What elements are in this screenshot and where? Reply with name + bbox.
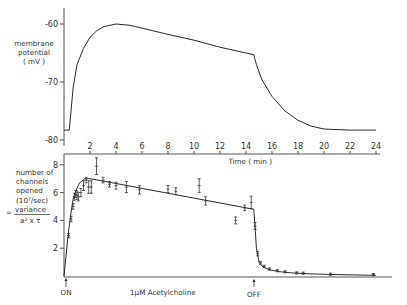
time-tick-label: 20 [319, 142, 329, 151]
time-tick-label: 4 [113, 142, 118, 151]
lower-ylabel-line4: (10⁷/sec) [16, 196, 48, 205]
data-point [256, 252, 259, 256]
data-point [174, 188, 177, 195]
membrane-potential-curve [64, 24, 376, 130]
upper-ylabel-line1: membrane [14, 39, 54, 48]
data-points [67, 158, 375, 276]
time-tick-label: 2 [87, 142, 92, 151]
data-point [90, 181, 93, 194]
figure: -60-70-80 membrane potential ( mV ) 2468… [0, 0, 407, 305]
lower-ylabel-line3: opened [16, 186, 43, 195]
drug-label: 1µM Acetylcholine [130, 288, 196, 297]
data-point [85, 177, 88, 183]
lower-y-tick-label: 6 [53, 189, 58, 198]
formula-denominator: a² x τ [20, 216, 40, 225]
data-point [125, 181, 128, 192]
data-point [95, 158, 98, 175]
on-marker: ON [60, 278, 71, 297]
data-point [243, 205, 246, 211]
on-label: ON [60, 288, 71, 297]
lower-y-ticks: 2468 [53, 161, 64, 253]
data-point [268, 268, 271, 270]
lower-ylabel-line2: channels [16, 177, 48, 186]
time-tick-label: 18 [293, 142, 303, 151]
lower-y-tick-label: 4 [53, 216, 58, 225]
formula-equals: = [6, 208, 12, 217]
data-point [167, 186, 170, 193]
on-arrowhead-icon [65, 278, 68, 281]
fit-line [64, 179, 376, 276]
upper-ylabel-line3: ( mV ) [23, 57, 45, 66]
time-tick-label: 24 [371, 142, 381, 151]
upper-ylabel-line2: potential [18, 48, 50, 57]
data-point [302, 272, 305, 274]
data-point [198, 179, 201, 193]
time-axis-label: Time ( min ) [227, 157, 272, 166]
time-axis: 24681012141618202224 Time ( min ) [64, 142, 381, 166]
lower-ylabel-line1: number of [16, 168, 54, 177]
off-arrowhead-icon [253, 279, 256, 282]
data-point [79, 188, 82, 196]
upper-y-tick-label: -80 [45, 136, 58, 145]
data-point [372, 273, 375, 275]
lower-y-tick-label: 2 [53, 244, 58, 253]
chart-svg: -60-70-80 membrane potential ( mV ) 2468… [0, 0, 407, 305]
data-point [295, 272, 298, 274]
upper-y-tick-label: -70 [45, 78, 58, 87]
lower-y-tick-label: 8 [53, 161, 58, 170]
data-point [234, 217, 237, 224]
data-point [329, 273, 332, 275]
data-point [263, 265, 266, 267]
data-point [250, 196, 253, 209]
time-tick-label: 6 [139, 142, 144, 151]
membrane-potential-panel: -60-70-80 membrane potential ( mV ) [14, 8, 376, 146]
upper-y-tick-label: -60 [45, 20, 58, 29]
time-tick-label: 16 [267, 142, 277, 151]
formula-numerator: variance [15, 205, 47, 214]
time-tick-label: 8 [165, 142, 170, 151]
data-point [204, 197, 207, 205]
time-tick-label: 10 [189, 142, 199, 151]
data-point [102, 177, 105, 183]
data-point [284, 271, 287, 273]
data-point [276, 270, 279, 272]
off-label: OFF [247, 290, 261, 299]
off-marker: OFF [247, 279, 261, 299]
data-point [138, 186, 141, 194]
time-tick-label: 12 [215, 142, 225, 151]
data-point [254, 222, 257, 229]
data-point [82, 181, 85, 191]
data-point [87, 181, 90, 194]
channels-opened-panel: 2468 number of channels opened (10⁷/sec)… [6, 154, 392, 299]
time-axis-ticks: 24681012141618202224 [87, 142, 381, 154]
time-tick-label: 22 [345, 142, 355, 151]
time-tick-label: 14 [241, 142, 251, 151]
